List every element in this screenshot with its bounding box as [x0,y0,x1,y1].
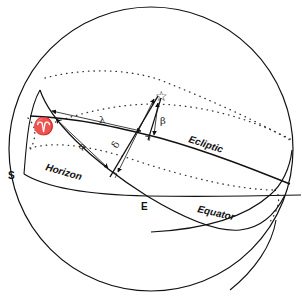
horizon-label: Horizon [44,161,83,182]
beta-label: β [160,115,166,126]
east-label: E [141,201,148,212]
star-icon: ☆ [155,88,168,104]
south-label: S [8,170,15,181]
measurement-arrows [52,99,158,172]
equator-line [40,90,285,230]
vernal-equinox-icon: ♈ [33,116,54,136]
delta-label: δ [109,139,122,150]
equator-label: Equator [197,203,237,222]
celestial-sphere-diagram: ☆ S E Horizon Ecliptic Equator ♈ λ β α δ [0,0,302,298]
celestial-sphere-outline [9,7,293,291]
lambda-label: λ [99,114,106,125]
